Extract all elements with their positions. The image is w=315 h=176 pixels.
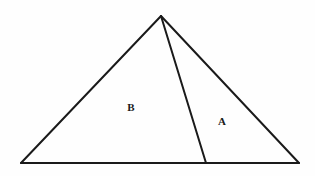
triangle-left-side-line xyxy=(21,16,161,163)
geometry-diagram-canvas: B A xyxy=(0,0,315,176)
triangle-figure xyxy=(0,0,315,176)
cevian-line xyxy=(161,16,206,163)
triangle-outline xyxy=(21,16,299,163)
region-label-b: B xyxy=(127,102,135,113)
triangle-right-side-line xyxy=(161,16,299,163)
region-label-a: A xyxy=(218,116,226,127)
